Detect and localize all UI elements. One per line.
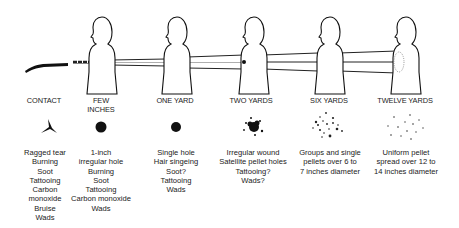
diagram-artwork (0, 0, 459, 228)
description-line: monoxide (24, 194, 66, 203)
distance-label-contact: CONTACT (27, 96, 61, 105)
label-line: FEW (87, 96, 114, 105)
wound-description-twelve-yards: Uniform pellet spread over 12 to 14 inch… (374, 148, 438, 176)
target-figure-twelve-yards (391, 17, 421, 94)
description-line: 14 inches diameter (374, 167, 438, 176)
description-line: Tattooing (154, 176, 198, 185)
uniform-spread-icon (387, 114, 423, 140)
description-line: Burning (24, 157, 66, 166)
description-line: Soot (24, 167, 66, 176)
description-line: Tattooing (71, 185, 131, 194)
target-figure-few-inches (87, 17, 117, 94)
description-line: Wads? (219, 176, 287, 185)
ragged-tear-icon (41, 119, 57, 133)
description-line: Carbon (24, 185, 66, 194)
label-line: CONTACT (27, 96, 61, 105)
description-line: Carbon monoxide (71, 194, 131, 203)
single-hole-icon (171, 122, 181, 132)
label-line: TWELVE YARDS (377, 96, 432, 105)
description-line: spread over 12 to (374, 157, 438, 166)
distance-label-two-yards: TWO YARDS (229, 96, 272, 105)
shot-path (73, 51, 397, 73)
wound-description-one-yard: Single hole Hair singeing Soot? Tattooin… (154, 148, 198, 194)
description-line: 1-inch (71, 148, 131, 157)
wound-description-contact: Ragged tear Burning Soot Tattooing Carbo… (24, 148, 66, 222)
label-line: ONE YARD (156, 96, 193, 105)
distance-label-six-yards: SIX YARDS (310, 96, 348, 105)
wound-description-few-inches: 1-inch irregular hole Burning Soot Tatto… (71, 148, 131, 213)
label-line: SIX YARDS (310, 96, 348, 105)
distance-label-few-inches: FEW INCHES (87, 96, 114, 114)
shotgun-icon (25, 63, 68, 73)
target-figure-six-yards (315, 17, 345, 94)
satellite-holes-icon (243, 117, 263, 136)
irregular-hole-icon (96, 122, 107, 133)
description-line: Soot (71, 176, 131, 185)
description-line: Irregular wound (219, 148, 287, 157)
description-line: Tattooing (24, 176, 66, 185)
description-line: Wads (24, 213, 66, 222)
wound-description-six-yards: Groups and single pellets over 6 to 7 in… (299, 148, 361, 176)
description-line: Ragged tear (24, 148, 66, 157)
description-line: pellets over 6 to (299, 157, 361, 166)
impact-mark-two-yards (242, 60, 246, 64)
label-line: INCHES (87, 105, 114, 114)
pellet-groups-icon (312, 112, 343, 138)
description-line: Soot? (154, 167, 198, 176)
description-line: Wads (154, 185, 198, 194)
target-figure-one-yard (162, 17, 192, 94)
distance-label-one-yard: ONE YARD (156, 96, 193, 105)
description-line: Hair singeing (154, 157, 198, 166)
description-line: Tattooing? (219, 167, 287, 176)
label-line: TWO YARDS (229, 96, 272, 105)
description-line: Wads (71, 204, 131, 213)
distance-label-twelve-yards: TWELVE YARDS (377, 96, 432, 105)
wound-description-two-yards: Irregular wound Satellite pellet holes T… (219, 148, 287, 185)
target-figure-two-yards (239, 17, 269, 94)
description-line: 7 inches diameter (299, 167, 361, 176)
description-line: Single hole (154, 148, 198, 157)
description-line: Groups and single (299, 148, 361, 157)
description-line: Uniform pellet (374, 148, 438, 157)
description-line: Satellite pellet holes (219, 157, 287, 166)
description-line: irregular hole (71, 157, 131, 166)
description-line: Bruise (24, 204, 66, 213)
description-line: Burning (71, 167, 131, 176)
